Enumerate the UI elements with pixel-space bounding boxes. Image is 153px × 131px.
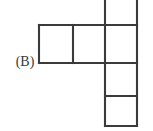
cell-col3-row3 <box>105 96 137 126</box>
cell-col1-row1 <box>39 25 73 63</box>
cell-col3-row0 <box>105 0 137 25</box>
figure-container: (B) <box>0 0 153 131</box>
cell-col3-row2 <box>105 63 137 96</box>
cell-col3-row1 <box>105 25 137 63</box>
polyomino-net-drawing <box>0 0 153 131</box>
cell-col2-row1 <box>73 25 105 63</box>
